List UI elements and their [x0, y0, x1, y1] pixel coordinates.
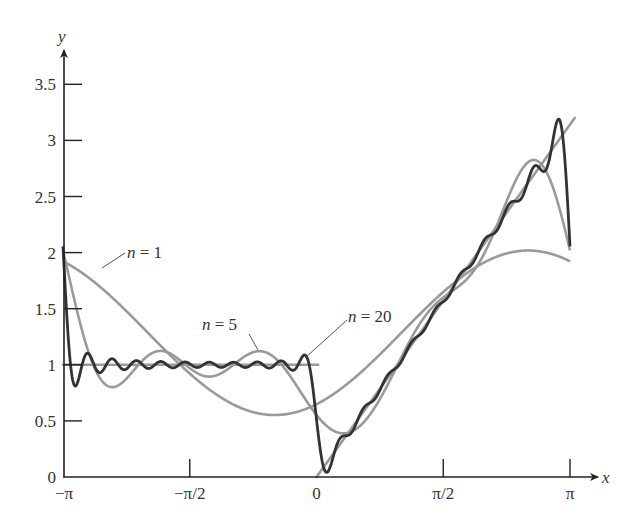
y-tick-label: 1.5	[35, 300, 56, 319]
x-tick-label: π	[566, 484, 575, 503]
plot-area	[63, 118, 575, 477]
y-tick-label: 3	[48, 131, 57, 150]
series-n-1	[63, 251, 570, 415]
x-tick-label: −π/2	[174, 484, 205, 503]
y-ticks: 00.511.522.533.5	[35, 75, 82, 487]
y-tick-label: 1	[48, 356, 57, 375]
series-annotations: n = 1n = 5n = 20	[102, 243, 392, 358]
x-axis-label: x	[601, 468, 610, 487]
series-n-5	[63, 160, 570, 433]
series-label: n = 5	[202, 315, 237, 334]
series-n-20	[63, 119, 570, 472]
y-tick-label: 0.5	[35, 412, 56, 431]
axes: 00.511.522.533.5 −π−π/20π/2π x y	[35, 27, 610, 503]
annotation-leader	[305, 320, 347, 358]
y-tick-label: 2.5	[35, 188, 56, 207]
y-tick-label: 3.5	[35, 75, 56, 94]
x-tick-label: −π	[55, 484, 74, 503]
series-label: n = 1	[127, 243, 162, 262]
y-tick-label: 2	[48, 244, 57, 263]
x-tick-label: 0	[312, 484, 321, 503]
x-ticks: −π−π/20π/2π	[55, 459, 575, 503]
y-axis-label: y	[56, 27, 66, 46]
series-label: n = 20	[348, 307, 392, 326]
x-tick-label: π/2	[432, 484, 454, 503]
fourier-series-chart: 00.511.522.533.5 −π−π/20π/2π x y n = 1n …	[0, 0, 642, 523]
annotation-leader	[102, 253, 125, 268]
annotation-leader	[249, 334, 258, 350]
